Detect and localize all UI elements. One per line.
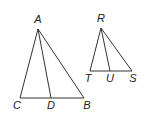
- label-d: D: [47, 99, 55, 111]
- segment-rt: [90, 28, 101, 71]
- label-b: B: [83, 99, 90, 111]
- triangle-rst: R T U S: [85, 12, 138, 84]
- label-r: R: [97, 12, 105, 24]
- label-c: C: [13, 99, 21, 111]
- label-u: U: [106, 72, 114, 84]
- triangle-abc: A C D B: [13, 13, 91, 111]
- label-s: S: [129, 72, 137, 84]
- segment-ac: [20, 29, 38, 98]
- geometry-diagram: A C D B R T U S: [0, 0, 147, 117]
- label-a: A: [33, 13, 41, 25]
- label-t: T: [85, 72, 93, 84]
